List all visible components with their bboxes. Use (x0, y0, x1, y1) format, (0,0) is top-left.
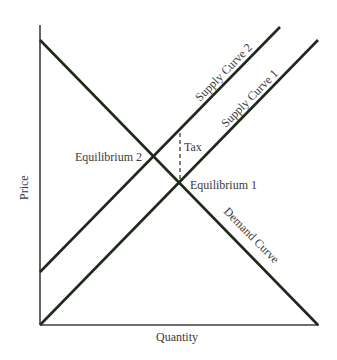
x-axis-label: Quantity (156, 330, 198, 344)
equilibrium-1-label: Equilibrium 1 (190, 178, 257, 192)
equilibrium-2-label: Equilibrium 2 (75, 150, 142, 164)
tax-label: Tax (184, 140, 202, 154)
y-axis-label: Price (17, 175, 31, 200)
supply-demand-diagram: Tax Equilibrium 2 Equilibrium 1 Supply C… (0, 0, 337, 360)
